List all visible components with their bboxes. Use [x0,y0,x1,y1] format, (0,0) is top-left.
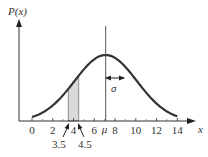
y-axis-label: P(x) [7,5,27,18]
x-axis-label: x [197,123,203,135]
x-tick-label: 4 [71,124,77,136]
bell-curve [32,55,177,117]
bell-curve-path [32,55,177,117]
x-tick-label: 8 [112,124,118,136]
left-edge-pointer [63,123,69,137]
right-edge-arrow-icon [78,123,83,130]
sigma-arrow-right-icon [119,76,125,81]
y-axis-arrow-icon [16,19,22,27]
sigma-arrow [105,76,125,81]
x-tick-label: 10 [130,124,142,136]
x-tick-label: 0 [29,124,35,136]
x-tick-label: 12 [151,124,162,136]
mu-label: μ [101,123,108,135]
right-edge-pointer [78,123,84,137]
left-edge-arrow-icon [65,123,70,130]
x-tick-label: 6 [92,124,98,136]
left-edge-label: 3.5 [52,138,66,150]
right-edge-label: 4.5 [78,138,92,150]
x-axis-arrow-icon [187,118,196,124]
normal-distribution-chart: P(x) x 02468101214 μ σ 3.5 4.5 [0,0,208,157]
x-tick-label: 14 [172,124,184,136]
sigma-label: σ [111,82,117,94]
x-tick-label: 2 [50,124,56,136]
